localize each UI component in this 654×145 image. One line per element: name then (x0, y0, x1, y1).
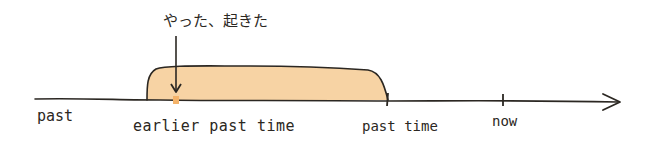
label-earlier-past-time: earlier past time (133, 119, 295, 134)
label-now: now (492, 114, 517, 128)
shaded-duration-region (147, 66, 388, 100)
timeline-graphic (0, 0, 654, 145)
label-past: past (37, 109, 73, 124)
tick-past-time (387, 93, 388, 106)
annotation-text: やった、起きた (163, 14, 268, 29)
event-marker (173, 96, 179, 104)
timeline-diagram: やった、起きた past earlier past time past time… (0, 0, 654, 145)
label-past-time: past time (362, 119, 438, 133)
